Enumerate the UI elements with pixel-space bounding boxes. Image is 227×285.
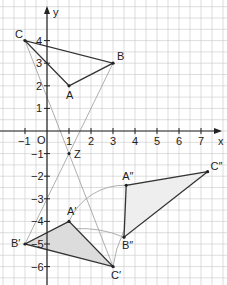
coordinate-diagram: xyO−112345674321−1−2−3−4−5−6 ABCZA′B′C′A… bbox=[0, 0, 227, 285]
y-tick-label: 4 bbox=[36, 35, 42, 47]
y-axis-label: y bbox=[53, 6, 59, 18]
y-tick-label: −3 bbox=[31, 193, 44, 205]
axes: xyO−112345674321−1−2−3−4−5−6 bbox=[0, 6, 224, 285]
point-a1 bbox=[67, 220, 70, 223]
x-tick-label: 4 bbox=[132, 135, 138, 147]
point-c2 bbox=[206, 170, 209, 173]
point-label-c: C bbox=[15, 28, 23, 40]
x-tick-label: −1 bbox=[18, 135, 31, 147]
point-label-z: Z bbox=[74, 148, 81, 160]
y-tick-label: −1 bbox=[31, 148, 44, 160]
point-b1 bbox=[23, 242, 26, 245]
point-z bbox=[67, 152, 70, 155]
point-label-c2: C″ bbox=[211, 160, 223, 172]
point-label-a1: A′ bbox=[67, 205, 76, 217]
x-tick-label: 6 bbox=[176, 135, 182, 147]
x-tick-label: 2 bbox=[88, 135, 94, 147]
point-label-b2: B″ bbox=[122, 239, 133, 251]
x-tick-label: 5 bbox=[154, 135, 160, 147]
y-tick-label: −2 bbox=[31, 170, 44, 182]
x-axis-arrow-icon bbox=[214, 128, 222, 134]
point-c bbox=[23, 39, 26, 42]
x-tick-label: 7 bbox=[198, 135, 204, 147]
y-tick-label: −6 bbox=[31, 261, 44, 273]
point-a bbox=[67, 84, 70, 87]
point-a2 bbox=[125, 184, 128, 187]
point-label-a2: A″ bbox=[122, 170, 133, 182]
point-label-b: B bbox=[117, 50, 124, 62]
point-b bbox=[111, 62, 114, 65]
triangle-a2b2c2 bbox=[124, 172, 208, 238]
x-tick-label: 3 bbox=[110, 135, 116, 147]
point-label-b1: B′ bbox=[11, 237, 20, 249]
x-tick-label: 1 bbox=[66, 135, 72, 147]
y-axis-arrow-icon bbox=[44, 6, 50, 14]
y-tick-label: 2 bbox=[36, 80, 42, 92]
point-label-c1: C′ bbox=[111, 269, 121, 281]
y-tick-label: −4 bbox=[31, 215, 44, 227]
point-label-a: A bbox=[66, 89, 74, 101]
y-tick-label: −5 bbox=[31, 238, 44, 250]
y-tick-label: 3 bbox=[36, 57, 42, 69]
origin-label: O bbox=[37, 134, 46, 146]
x-axis-label: x bbox=[218, 135, 224, 147]
y-tick-label: 1 bbox=[36, 102, 42, 114]
